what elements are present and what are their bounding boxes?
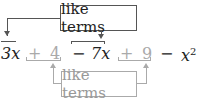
underline-9-tick-right (150, 57, 151, 60)
overline-7x-bracket (71, 41, 105, 42)
top-left-connector-h (7, 18, 60, 19)
bottom-right-connector-h (136, 83, 147, 84)
bottom-left-connector-h (53, 83, 61, 84)
arrow-down-icon (4, 31, 10, 36)
operator-minus-2: − (160, 46, 173, 62)
underline-4-tick-right (60, 57, 61, 60)
bottom-label-text: like terms (62, 66, 136, 101)
underline-4-bracket (26, 60, 61, 61)
bottom-like-terms-label: like terms (61, 71, 137, 97)
top-like-terms-label: like terms (60, 5, 137, 31)
overline-3x (1, 41, 16, 42)
underline-9-bracket (118, 60, 151, 61)
term-7x: 7x (91, 46, 110, 62)
term-3x: 3x (1, 46, 20, 62)
term-x-squared: x2 (181, 44, 196, 64)
underline-4-tick-left (26, 57, 27, 60)
bottom-right-connector-v (146, 67, 147, 84)
operator-minus-1: − (72, 46, 85, 62)
top-label-text: like terms (61, 0, 136, 36)
bottom-left-connector-v (53, 67, 54, 84)
underline-9-tick-left (118, 57, 119, 60)
arrow-down-icon (98, 34, 104, 39)
